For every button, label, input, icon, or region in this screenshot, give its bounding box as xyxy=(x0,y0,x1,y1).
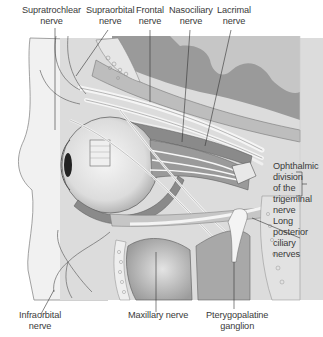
label-pterygopalatine-ganglion: Pterygopalatine ganglion xyxy=(206,310,268,332)
maxillary-sinus xyxy=(126,238,192,300)
rectus-tendon xyxy=(90,140,110,166)
label-lacrimal-nerve: Lacrimal nerve xyxy=(217,5,251,27)
label-infraorbital-nerve: Infraorbital nerve xyxy=(19,310,61,332)
label-maxillary-nerve: Maxillary nerve xyxy=(128,310,188,321)
label-nasociliary-nerve: Nasociliary nerve xyxy=(169,5,213,27)
pterygopalatine-region xyxy=(196,231,250,300)
pupil xyxy=(64,153,72,177)
label-frontal-nerve: Frontal nerve xyxy=(136,5,164,27)
label-supratrochlear-nerve: Supratrochlear nerve xyxy=(22,5,81,27)
anatomy-figure: Supratrochlear nerve Supraorbital nerve … xyxy=(0,0,323,337)
label-ophthalmic-division: Ophthalmic division of the trigeminal ne… xyxy=(273,161,318,216)
label-long-posterior-ciliary-nerves: Long posterior ciliary nerves xyxy=(273,216,308,260)
label-supraorbital-nerve: Supraorbital nerve xyxy=(86,5,134,27)
